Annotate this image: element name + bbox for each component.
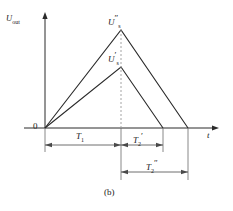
outer-peak-label-prime: ″ <box>115 13 119 23</box>
y-axis-label: Uout <box>6 13 20 25</box>
outer-peak-label: U″s <box>108 13 121 29</box>
dimension-arrow-t2pp-left <box>121 170 128 174</box>
inner-peak-label: U′s <box>108 50 119 66</box>
y-axis-label-sub: out <box>12 19 20 25</box>
inner-peak-label-sub: s <box>116 60 118 66</box>
origin-label: 0 <box>33 121 38 131</box>
dimension-label-t2-prime: T2′ <box>133 131 143 147</box>
dimension-arrow-t2p-right <box>156 143 163 147</box>
x-axis-label: t <box>207 130 210 140</box>
waveform-figure <box>0 0 233 211</box>
dimension-label-t2pp-prime: ″ <box>154 158 158 168</box>
inner-waveform-trace <box>45 67 163 128</box>
dimension-label-t1-sub: 1 <box>81 137 84 143</box>
dimension-arrow-t2p-left <box>121 143 128 147</box>
figure-caption: (b) <box>104 187 115 197</box>
y-axis-arrowhead <box>42 12 47 19</box>
outer-waveform-trace <box>45 30 188 128</box>
dimension-arrow-t2pp-right <box>181 170 188 174</box>
dimension-arrow-t1-right <box>114 143 121 147</box>
inner-peak-label-prime: ′ <box>115 50 117 60</box>
dimension-arrow-t1-left <box>45 143 52 147</box>
dimension-label-t2p-sub: 2 <box>138 141 141 147</box>
outer-peak-label-sub: s <box>118 23 120 29</box>
dimension-label-t2pp-sub: 2 <box>151 168 154 174</box>
dimension-label-t2-double-prime: T2″ <box>146 158 158 174</box>
x-axis-arrowhead <box>212 125 219 130</box>
dimension-label-t2p-prime: ′ <box>141 131 143 141</box>
dimension-label-t1: T1 <box>76 131 84 143</box>
